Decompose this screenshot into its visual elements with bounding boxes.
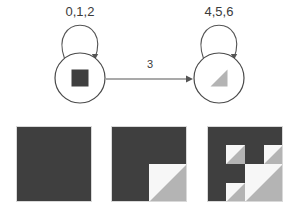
self-loop-label-left: 0,1,2: [66, 4, 95, 19]
figure-canvas: 0,1,2 4,5,6 3: [0, 0, 299, 213]
figure-root: 0,1,2 4,5,6 3: [0, 0, 299, 213]
fractal-solid-cell: [207, 164, 226, 183]
transition-arrowhead: [186, 76, 193, 83]
fractal-square-1: [16, 126, 92, 202]
fractal-solid-cell: [149, 126, 187, 164]
fractal-solid-cell: [264, 126, 283, 145]
fractal-square-3: [207, 126, 283, 202]
fractal-solid-cell: [226, 164, 245, 183]
transition-label: 3: [147, 58, 153, 70]
fractal-solid-cell: [207, 126, 226, 145]
self-loop-label-right: 4,5,6: [205, 4, 234, 19]
fractal-solid-cell: [226, 126, 245, 145]
fractal-iterations: [16, 126, 283, 202]
fractal-solid-cell: [207, 183, 226, 202]
filled-square-glyph: [72, 70, 89, 87]
fractal-solid-cell: [245, 145, 264, 164]
fractal-solid-cell: [111, 126, 149, 164]
fractal-solid-cell: [111, 164, 149, 202]
fractal-solid-cell: [207, 145, 226, 164]
fractal-solid-cell: [245, 126, 264, 145]
automaton-diagram: 0,1,2 4,5,6 3: [55, 4, 244, 103]
fractal-solid-cell: [16, 126, 92, 202]
fractal-square-2: [111, 126, 187, 202]
